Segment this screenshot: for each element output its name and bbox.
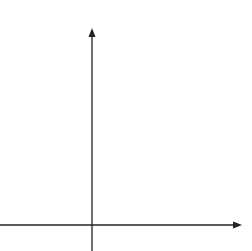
coordinate-grid <box>0 0 252 251</box>
x-axis-arrow-icon <box>233 222 242 229</box>
y-axis-arrow-icon <box>89 28 96 37</box>
axes <box>0 28 242 251</box>
